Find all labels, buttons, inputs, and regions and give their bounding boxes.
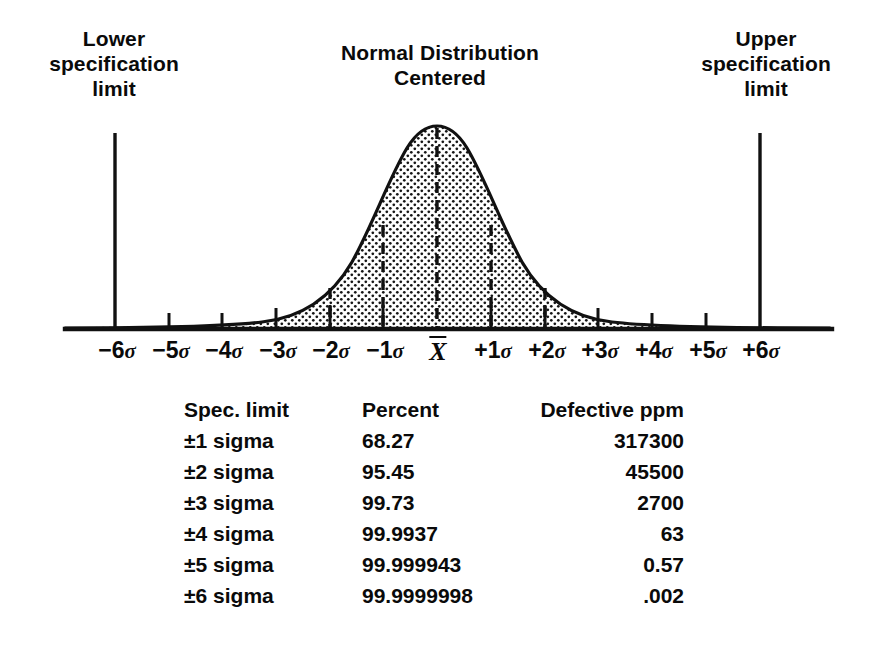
axis-tick-minus4sigma: −4σ xyxy=(205,336,243,365)
axis-tick-minus1sigma: −1σ xyxy=(366,336,404,365)
axis-tick-minus3sigma: −3σ xyxy=(259,336,297,365)
cell-defective-ppm: 317300 xyxy=(538,429,684,460)
cell-defective-ppm: .002 xyxy=(538,584,684,615)
table-body: ±1 sigma 68.27 317300 ±2 sigma 95.45 455… xyxy=(184,429,684,615)
cell-spec-limit: ±6 sigma xyxy=(184,584,362,615)
normal-distribution-figure: Lower specification limit Normal Distrib… xyxy=(0,0,879,655)
table-row: ±4 sigma 99.9937 63 xyxy=(184,522,684,553)
cell-spec-limit: ±1 sigma xyxy=(184,429,362,460)
distribution-shaded-area xyxy=(60,110,840,335)
table-row: ±2 sigma 95.45 45500 xyxy=(184,460,684,491)
sigma-defect-table-wrapper: Spec. limit Percent Defective ppm ±1 sig… xyxy=(184,398,684,615)
cell-percent: 99.9999998 xyxy=(362,584,538,615)
cell-spec-limit: ±3 sigma xyxy=(184,491,362,522)
axis-tick-plus1sigma: +1σ xyxy=(474,336,512,365)
axis-tick-mean: X xyxy=(429,336,446,366)
cell-percent: 95.45 xyxy=(362,460,538,491)
axis-tick-plus6sigma: +6σ xyxy=(742,336,780,365)
cell-spec-limit: ±2 sigma xyxy=(184,460,362,491)
table-row: ±3 sigma 99.73 2700 xyxy=(184,491,684,522)
table-row: ±1 sigma 68.27 317300 xyxy=(184,429,684,460)
axis-tick-minus2sigma: −2σ xyxy=(312,336,350,365)
cell-percent: 99.73 xyxy=(362,491,538,522)
table-header-defective-ppm: Defective ppm xyxy=(538,398,684,429)
table-row: ±5 sigma 99.999943 0.57 xyxy=(184,553,684,584)
cell-percent: 99.9937 xyxy=(362,522,538,553)
table-header-row: Spec. limit Percent Defective ppm xyxy=(184,398,684,429)
table-header-percent: Percent xyxy=(362,398,538,429)
cell-defective-ppm: 0.57 xyxy=(538,553,684,584)
axis-tick-plus3sigma: +3σ xyxy=(581,336,619,365)
cell-spec-limit: ±5 sigma xyxy=(184,553,362,584)
table-header-spec-limit: Spec. limit xyxy=(184,398,362,429)
cell-percent: 68.27 xyxy=(362,429,538,460)
axis-tick-plus2sigma: +2σ xyxy=(528,336,566,365)
axis-tick-minus6sigma: −6σ xyxy=(98,336,136,365)
table-row: ±6 sigma 99.9999998 .002 xyxy=(184,584,684,615)
axis-tick-label-row: −6σ −5σ −4σ −3σ −2σ −1σ X +1σ +2σ +3σ +4… xyxy=(0,336,879,370)
cell-defective-ppm: 45500 xyxy=(538,460,684,491)
axis-tick-plus4sigma: +4σ xyxy=(635,336,673,365)
cell-percent: 99.999943 xyxy=(362,553,538,584)
cell-spec-limit: ±4 sigma xyxy=(184,522,362,553)
mean-label: X xyxy=(429,336,446,364)
cell-defective-ppm: 63 xyxy=(538,522,684,553)
axis-tick-plus5sigma: +5σ xyxy=(689,336,727,365)
axis-tick-minus5sigma: −5σ xyxy=(152,336,190,365)
sigma-defect-table: Spec. limit Percent Defective ppm ±1 sig… xyxy=(184,398,684,615)
cell-defective-ppm: 2700 xyxy=(538,491,684,522)
